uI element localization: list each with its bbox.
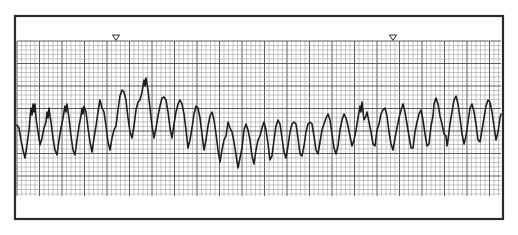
ecg-strip: [0, 0, 518, 235]
